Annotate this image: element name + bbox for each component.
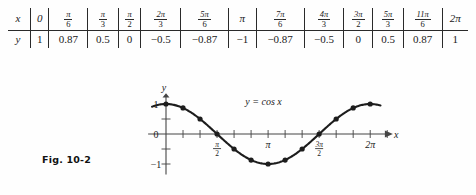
y-tick-label: 1 (154, 99, 159, 110)
table-cell-x: 0 (31, 8, 49, 31)
table-cell-y: 0.5 (373, 31, 404, 49)
y-axis-label: y (161, 82, 167, 93)
x-tick-label: 2π (365, 139, 376, 150)
table-cell-x: 5π3 (373, 8, 404, 31)
data-point (231, 146, 236, 151)
table-row-y: y 10.870.50−0.5−0.87−1−0.87−0.500.50.871 (8, 31, 468, 49)
equation-label: y = cos x (244, 96, 282, 107)
table-cell-y: −0.5 (304, 31, 344, 49)
table-cell-x: 11π6 (403, 8, 442, 31)
row-label-y: y (8, 31, 31, 49)
table-cell-x: 2π (442, 8, 468, 31)
x-tick-label-denominator: 2 (317, 149, 321, 158)
table-cell-y: 0 (118, 31, 141, 49)
table-cell-y: 0.87 (403, 31, 442, 49)
x-axis-label: x (393, 129, 399, 140)
table-cell-x: 4π3 (304, 8, 344, 31)
table-cell-y: −0.5 (141, 31, 181, 49)
x-axis-arrow (385, 131, 393, 138)
table-cell-x: π6 (49, 8, 88, 31)
table-cell-y: 1 (442, 31, 468, 49)
table-cell-x: 3π2 (344, 8, 373, 31)
table-cell-y: 1 (31, 31, 49, 49)
table-cell-y: 0.87 (49, 31, 88, 49)
cosine-value-table: x 0π6π3π22π35π6π7π64π33π25π311π62π y 10.… (8, 8, 468, 48)
data-point (317, 131, 322, 136)
table-cell-x: π (229, 8, 257, 31)
table-row-x: x 0π6π3π22π35π6π7π64π33π25π311π62π (8, 8, 468, 31)
data-point (214, 131, 219, 136)
data-point (266, 161, 271, 166)
y-tick-label: −1 (151, 159, 162, 170)
table-cell-y: 0.5 (88, 31, 119, 49)
data-point (197, 116, 202, 121)
table-cell-x: π2 (118, 8, 141, 31)
row-label-x: x (8, 8, 31, 31)
cosine-graph: yx10−1π2π3π22π y = cos x (110, 52, 410, 192)
table-cell-x: 2π3 (141, 8, 181, 31)
data-point (163, 101, 168, 106)
table-cell-x: 5π6 (181, 8, 229, 31)
x-tick-label-denominator: 2 (215, 149, 219, 158)
table-cell-y: 0 (344, 31, 373, 49)
data-point (368, 101, 373, 106)
table-cell-y: −0.87 (181, 31, 229, 49)
data-point (283, 158, 288, 163)
y-tick-label: 0 (154, 129, 159, 140)
table-cell-x: π3 (88, 8, 119, 31)
y-axis-arrow (163, 93, 170, 97)
table-cell-y: −1 (229, 31, 257, 49)
graph-svg: yx10−1π2π3π22π y = cos x (110, 52, 410, 192)
x-tick-label: π (266, 139, 272, 150)
data-point (248, 158, 253, 163)
table-cell-y: −0.87 (256, 31, 304, 49)
data-point (351, 105, 356, 110)
figure-caption: Fig. 10-2 (42, 154, 91, 165)
table-cell-x: 7π6 (256, 8, 304, 31)
data-point (334, 116, 339, 121)
data-point (300, 146, 305, 151)
data-point (180, 105, 185, 110)
